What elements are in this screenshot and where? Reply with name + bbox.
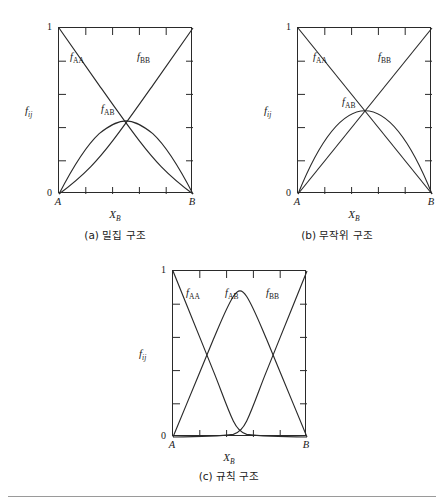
curve-label-fab-a: fAB bbox=[101, 104, 115, 117]
page-bottom-rule bbox=[8, 496, 436, 497]
x-axis-label-b: XB bbox=[334, 209, 374, 223]
curve-fab-b bbox=[298, 111, 432, 194]
curve-label-fbb-sub-c: BB bbox=[269, 292, 279, 301]
curve-label-fab-sub-b: AB bbox=[345, 101, 356, 110]
y-axis-label-sub-a: ij bbox=[28, 110, 32, 119]
x-endpoint-right-a: B bbox=[184, 197, 200, 208]
y-tick-max-a: 1 bbox=[36, 22, 52, 32]
x-endpoint-left-c: A bbox=[164, 440, 180, 451]
x-axis-label-sub-b: B bbox=[355, 214, 360, 223]
caption-c: (c) 규칙 구조 bbox=[114, 470, 344, 483]
curve-label-fbb-a: fBB bbox=[137, 52, 150, 65]
y-axis-label-c: fij bbox=[139, 348, 146, 362]
x-axis-label-sub-a: B bbox=[116, 214, 121, 223]
y-axis-label-a: fij bbox=[25, 105, 32, 119]
y-axis-label-sub-c: ij bbox=[142, 353, 146, 362]
panel-c: 1 0 fij A B XB fAA fAB fBB (c) 규칙 구조 bbox=[114, 255, 344, 502]
caption-b: (b) 무작위 구조 bbox=[230, 229, 444, 242]
curve-label-faa-sub-a: AA bbox=[73, 56, 84, 65]
x-axis-label-a: XB bbox=[95, 209, 135, 223]
curve-label-fab-c: fAB bbox=[225, 288, 239, 301]
x-endpoint-left-a: A bbox=[50, 197, 66, 208]
y-tick-max-c: 1 bbox=[150, 265, 166, 275]
curve-label-fab-b: fAB bbox=[342, 97, 356, 110]
y-axis-label-sub-b: ij bbox=[267, 110, 271, 119]
y-tick-max-b: 1 bbox=[275, 22, 291, 32]
x-axis-label-c: XB bbox=[209, 452, 249, 466]
curve-label-faa-c: fAA bbox=[186, 288, 200, 301]
x-axis-label-sub-c: B bbox=[230, 457, 235, 466]
curve-fab-c bbox=[173, 291, 307, 437]
curve-label-fab-sub-c: AB bbox=[228, 292, 239, 301]
curve-label-faa-sub-c: AA bbox=[189, 292, 200, 301]
y-axis-label-b: fij bbox=[264, 105, 271, 119]
panel-b: 1 0 fij A B XB fAA fBB fAB (b) 무작위 구조 bbox=[230, 0, 444, 250]
x-endpoint-left-b: A bbox=[289, 197, 305, 208]
curve-label-fbb-c: fBB bbox=[266, 288, 279, 301]
x-endpoint-right-b: B bbox=[423, 197, 439, 208]
curve-label-faa-b: fAA bbox=[313, 52, 327, 65]
curve-label-fbb-b: fBB bbox=[378, 52, 391, 65]
x-endpoint-right-c: B bbox=[298, 440, 314, 451]
curve-label-faa-sub-b: AA bbox=[316, 56, 327, 65]
curve-label-fab-sub-a: AB bbox=[104, 108, 115, 117]
curve-label-faa-a: fAA bbox=[70, 52, 84, 65]
curve-label-fbb-sub-b: BB bbox=[381, 56, 391, 65]
caption-a: (a) 밀집 구조 bbox=[0, 229, 230, 242]
figure-root: 1 0 fij A B XB fAA fBB fAB (a) 밀집 구조 bbox=[0, 0, 444, 502]
curve-label-fbb-sub-a: BB bbox=[140, 56, 150, 65]
panel-a: 1 0 fij A B XB fAA fBB fAB (a) 밀집 구조 bbox=[0, 0, 230, 250]
curve-fab-a bbox=[59, 121, 193, 194]
